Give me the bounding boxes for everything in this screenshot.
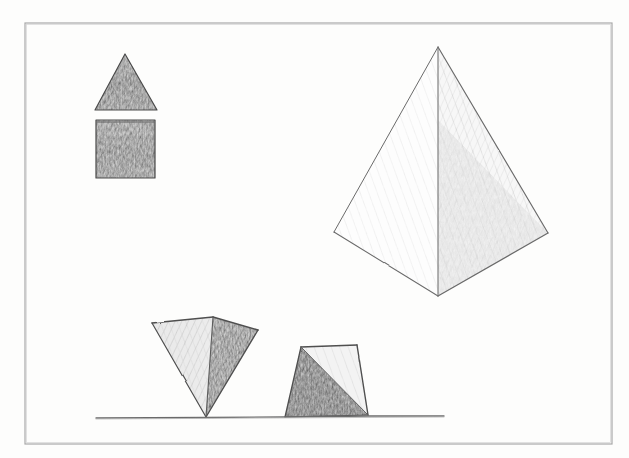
- shaded-square: [96, 120, 155, 178]
- sketch-page: [0, 0, 629, 458]
- geometric-shapes-sketch: [0, 0, 629, 458]
